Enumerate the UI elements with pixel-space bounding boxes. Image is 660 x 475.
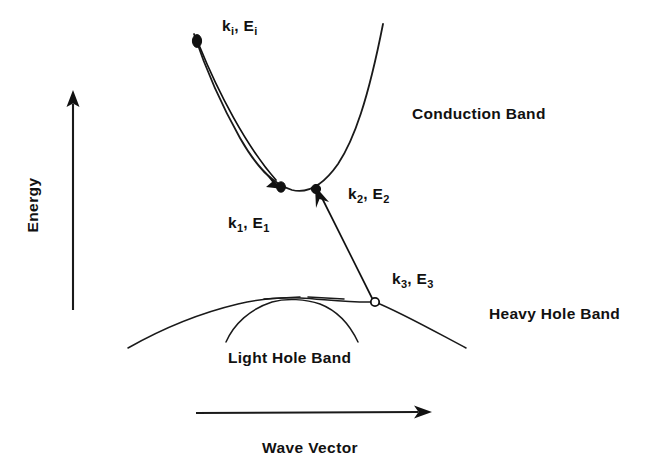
- heavy-hole-band-label: Heavy Hole Band: [489, 305, 620, 322]
- band-diagram-figure: Energy Wave Vector: [0, 0, 660, 475]
- marker-k2: [311, 184, 320, 193]
- label-ki: ki, Ei: [222, 17, 258, 37]
- diagram-canvas: Energy Wave Vector: [0, 0, 660, 475]
- label-k2-k: k: [348, 185, 357, 202]
- transition-k3-to-k2: [315, 186, 372, 298]
- label-k3-e-sub: 3: [427, 278, 433, 290]
- label-k1: k1, E1: [228, 214, 270, 234]
- conduction-band-curve: [194, 24, 383, 191]
- transition-ki-k1-line: [199, 45, 276, 180]
- label-ki-e-sub: i: [254, 25, 257, 37]
- y-axis-group: Energy: [24, 90, 80, 310]
- label-k2-e: E: [373, 185, 384, 202]
- label-k3-k: k: [392, 270, 401, 287]
- light-hole-band-curve: [226, 300, 358, 342]
- y-axis-label: Energy: [24, 178, 41, 233]
- heavy-hole-band-curve: [128, 298, 466, 348]
- label-ki-k: k: [222, 17, 231, 34]
- light-hole-band-label: Light Hole Band: [228, 349, 351, 366]
- label-k2-e-sub: 2: [383, 193, 389, 205]
- marker-ki: [192, 35, 201, 48]
- x-axis-label: Wave Vector: [262, 439, 358, 456]
- label-k1-k: k: [228, 214, 237, 231]
- label-k3: k3, E3: [392, 270, 434, 290]
- label-ki-e: E: [244, 17, 255, 34]
- label-k2: k2, E2: [348, 185, 390, 205]
- label-k1-e-sub: 1: [263, 222, 269, 234]
- label-k3-e: E: [417, 270, 428, 287]
- x-axis-group: Wave Vector: [196, 406, 432, 457]
- transition-k3-k2-line: [322, 198, 372, 298]
- label-k1-e: E: [253, 214, 264, 231]
- transition-ki-to-k1: [199, 45, 283, 189]
- x-axis-line: [196, 412, 418, 413]
- marker-k3: [371, 298, 379, 306]
- marker-k1: [277, 182, 286, 192]
- conduction-band-label: Conduction Band: [412, 105, 546, 122]
